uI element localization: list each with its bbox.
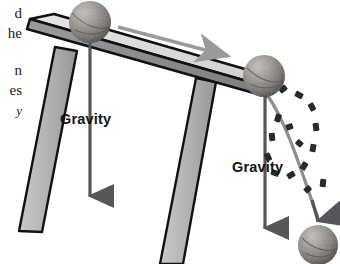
tilted-table [19, 14, 283, 264]
table-leg-right [160, 78, 216, 264]
margin-text-fragment: es [0, 83, 22, 98]
fall-trajectory [268, 96, 318, 218]
margin-text-fragment: n [0, 63, 22, 78]
table-leg-left [19, 47, 77, 232]
trajectory-dash-marks [264, 84, 327, 194]
physics-diagram-svg [0, 0, 340, 264]
margin-text-fragment: d [0, 6, 22, 21]
margin-text-fragment: he [0, 26, 22, 41]
ball-at-edge [243, 55, 285, 97]
gravity-label-left: Gravity [60, 111, 111, 127]
margin-text-fragment: y [0, 104, 22, 117]
ball-falling [298, 225, 338, 264]
gravity-label-right: Gravity [232, 159, 283, 175]
ball-on-table [69, 1, 111, 43]
fall-arrow [312, 200, 318, 221]
diagram-canvas: d he n es y Gravity Gravity [0, 0, 340, 264]
